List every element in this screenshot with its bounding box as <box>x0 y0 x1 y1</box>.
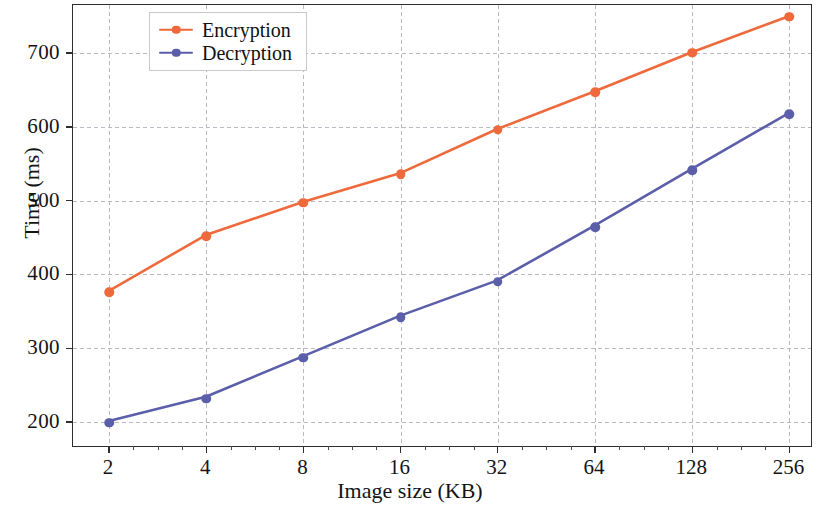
x-axis-minor-tick <box>546 446 547 450</box>
data-point-encryption <box>785 12 795 22</box>
legend-label: Decryption <box>202 43 292 63</box>
data-point-encryption <box>104 287 114 297</box>
data-point-encryption <box>493 125 503 135</box>
y-axis-tick-label: 200 <box>27 409 60 434</box>
data-point-decryption <box>590 222 600 232</box>
x-axis-minor-tick <box>522 446 523 450</box>
y-axis-tick <box>66 421 73 422</box>
x-axis-tick-label: 256 <box>773 455 805 480</box>
x-axis-tick-label: 64 <box>584 455 605 480</box>
y-axis-tick <box>66 126 73 127</box>
legend-swatch-icon <box>159 47 193 59</box>
x-axis-minor-tick <box>668 446 669 450</box>
x-axis-minor-tick <box>765 446 766 450</box>
data-point-decryption <box>396 313 406 323</box>
y-axis-tick-label: 500 <box>27 187 60 212</box>
x-axis-tick <box>497 446 498 453</box>
x-axis-tick-label: 128 <box>675 455 707 480</box>
data-point-decryption <box>785 110 795 120</box>
y-axis-tick <box>66 348 73 349</box>
x-axis-minor-tick <box>717 446 718 450</box>
x-axis-tick-label: 32 <box>486 455 507 480</box>
x-axis-minor-tick <box>255 446 256 450</box>
x-axis-tick-label: 4 <box>200 455 211 480</box>
x-axis-minor-tick <box>279 446 280 450</box>
x-axis-minor-tick <box>328 446 329 450</box>
x-axis-minor-tick <box>376 446 377 450</box>
x-axis-tick <box>594 446 595 453</box>
y-axis-tick <box>66 52 73 53</box>
data-point-encryption <box>201 231 211 241</box>
y-axis-tick <box>66 200 73 201</box>
y-axis-tick-label: 400 <box>27 261 60 286</box>
plot-area <box>73 5 811 446</box>
legend-swatch-icon <box>159 24 193 36</box>
data-point-decryption <box>299 353 309 363</box>
x-axis-tick <box>108 446 109 453</box>
x-axis-minor-tick <box>425 446 426 450</box>
x-axis-minor-tick <box>571 446 572 450</box>
x-axis-tick <box>206 446 207 453</box>
legend-label: Encryption <box>202 20 291 40</box>
x-axis-tick <box>789 446 790 453</box>
data-point-encryption <box>590 87 600 97</box>
x-axis-minor-tick <box>474 446 475 450</box>
series-line-decryption <box>109 114 788 421</box>
x-axis-minor-tick <box>231 446 232 450</box>
chart-legend: EncryptionDecryption <box>149 12 307 71</box>
x-axis-tick-label: 8 <box>297 455 308 480</box>
x-axis-minor-tick <box>449 446 450 450</box>
data-point-decryption <box>201 394 211 404</box>
x-axis-title: Image size (KB) <box>0 478 820 504</box>
legend-item: Decryption <box>159 41 292 64</box>
series-lines <box>73 5 811 446</box>
x-axis-minor-tick <box>158 446 159 450</box>
x-axis-tick-label: 16 <box>389 455 410 480</box>
data-point-encryption <box>396 169 406 179</box>
x-axis-tick-label: 2 <box>103 455 114 480</box>
data-point-decryption <box>493 277 503 287</box>
x-axis-minor-tick <box>352 446 353 450</box>
x-axis-minor-tick <box>619 446 620 450</box>
plot-frame: EncryptionDecryption <box>72 4 812 447</box>
x-axis-tick <box>400 446 401 453</box>
x-axis-minor-tick <box>182 446 183 450</box>
y-axis-tick-label: 600 <box>27 113 60 138</box>
x-axis-minor-tick <box>741 446 742 450</box>
x-axis-minor-tick <box>644 446 645 450</box>
data-point-encryption <box>299 198 309 208</box>
legend-item: Encryption <box>159 18 292 41</box>
x-axis-minor-tick <box>133 446 134 450</box>
chart-figure: Time (ms) 200300400500600700 EncryptionD… <box>0 0 820 512</box>
data-point-encryption <box>687 48 697 58</box>
x-axis-tick <box>303 446 304 453</box>
y-axis-tick-label: 300 <box>27 335 60 360</box>
data-point-decryption <box>687 166 697 176</box>
x-axis-tick <box>692 446 693 453</box>
y-axis-tick-label: 700 <box>27 39 60 64</box>
data-point-decryption <box>104 418 114 428</box>
y-axis-tick <box>66 274 73 275</box>
